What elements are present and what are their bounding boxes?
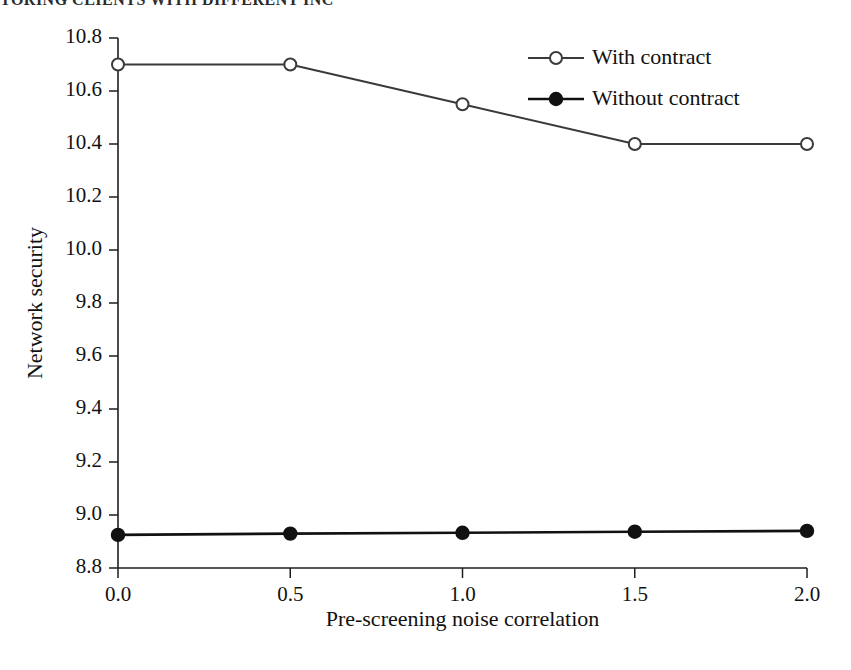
series-2	[112, 525, 813, 541]
y-axis: 8.89.09.29.49.69.810.010.210.410.610.8	[65, 24, 118, 578]
legend-label: Without contract	[592, 85, 740, 110]
y-tick-label: 9.6	[76, 342, 102, 366]
x-tick-label: 0.0	[105, 582, 131, 606]
x-tick-label: 0.5	[277, 582, 303, 606]
legend-label: With contract	[592, 44, 711, 69]
y-tick-label: 9.8	[76, 289, 102, 313]
x-tick-label: 1.5	[622, 582, 648, 606]
chart-legend: With contractWithout contract	[528, 44, 740, 110]
figure-network-security: 8.89.09.29.49.69.810.010.210.410.610.8 0…	[0, 0, 851, 670]
legend-item-1: With contract	[528, 44, 711, 69]
y-tick-label: 9.2	[76, 448, 102, 472]
y-tick-label: 10.2	[65, 183, 102, 207]
line-chart: 8.89.09.29.49.69.810.010.210.410.610.8 0…	[0, 0, 851, 670]
y-tick-label: 10.6	[65, 77, 102, 101]
y-tick-label: 10.4	[65, 130, 102, 154]
x-axis-title: Pre-screening noise correlation	[326, 606, 600, 631]
y-tick-label: 9.4	[76, 395, 103, 419]
y-tick-label: 9.0	[76, 501, 102, 525]
x-tick-label: 1.0	[449, 582, 475, 606]
x-tick-label: 2.0	[794, 582, 820, 606]
x-axis: 0.00.51.01.52.0	[105, 568, 820, 606]
y-tick-label: 8.8	[76, 554, 102, 578]
y-tick-label: 10.8	[65, 24, 102, 48]
plot-series	[112, 59, 813, 542]
y-tick-label: 10.0	[65, 236, 102, 260]
y-axis-title: Network security	[22, 227, 47, 379]
legend-item-2: Without contract	[528, 85, 740, 110]
